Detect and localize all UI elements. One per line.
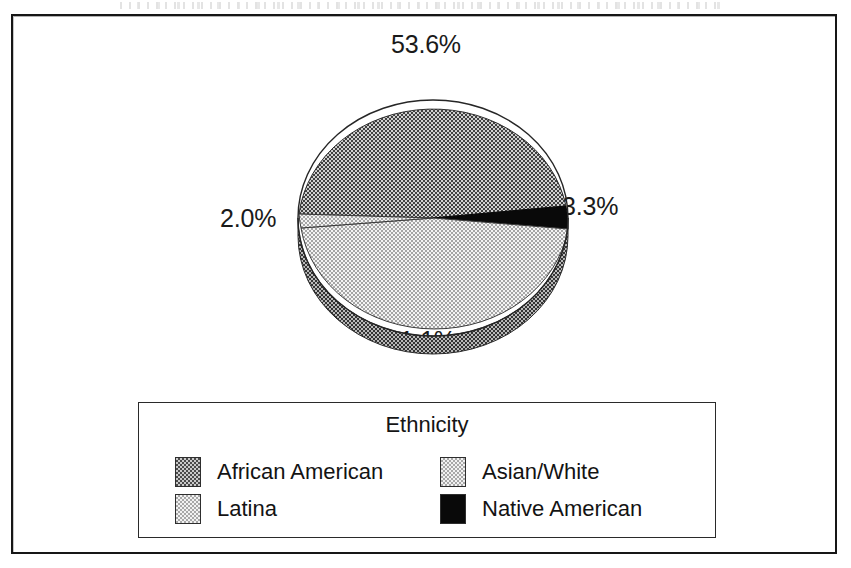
legend-item-latina[interactable]: Latina <box>175 494 440 524</box>
legend-label-latina: Latina <box>217 496 277 522</box>
legend-title: Ethnicity <box>139 412 715 438</box>
legend-label-asian-white: Asian/White <box>482 459 599 485</box>
pie-label-asian-white: 2.0% <box>220 206 276 231</box>
solid-black-swatch-icon <box>440 494 466 524</box>
pie-label-african-american: 53.6% <box>391 32 461 57</box>
dark-checker-swatch-icon <box>175 457 201 487</box>
legend-item-native-american[interactable]: Native American <box>440 494 685 524</box>
pie-chart-region: 53.6% 3.3% 41.1% 2.0% <box>13 16 839 386</box>
light-checker-swatch-icon <box>175 494 201 524</box>
legend: Ethnicity African American Asian/White L… <box>138 402 716 538</box>
legend-item-asian-white[interactable]: Asian/White <box>440 457 685 487</box>
legend-item-african-american[interactable]: African American <box>175 457 440 487</box>
pie-slice-african-american <box>299 109 566 218</box>
pie-chart-graphic <box>285 66 581 358</box>
legend-entries: African American Asian/White Latina Nati… <box>175 453 685 527</box>
legend-label-native-american: Native American <box>482 496 642 522</box>
light-checker-swatch-icon <box>440 457 466 487</box>
scan-speckle-artifact <box>120 2 720 9</box>
figure-frame: 53.6% 3.3% 41.1% 2.0% <box>11 14 837 554</box>
legend-label-african-american: African American <box>217 459 383 485</box>
